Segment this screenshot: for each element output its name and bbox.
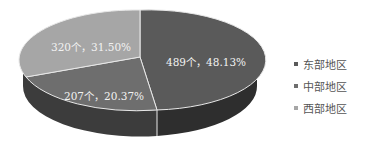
legend-label: 中部地区 — [303, 78, 347, 94]
legend-item-west[interactable]: 西部地区 — [294, 97, 347, 119]
pie-chart: 489个，48.13% 207个，20.37% 320个，31.50% — [0, 0, 290, 154]
legend-item-central[interactable]: 中部地区 — [294, 75, 347, 97]
legend: 东部地区 中部地区 西部地区 — [294, 53, 347, 119]
label-central: 207个，20.37% — [64, 90, 144, 102]
legend-swatch-icon — [294, 62, 298, 66]
legend-item-east[interactable]: 东部地区 — [294, 53, 347, 75]
legend-label: 东部地区 — [303, 56, 347, 72]
legend-swatch-icon — [294, 84, 298, 88]
label-east: 489个，48.13% — [166, 56, 246, 68]
legend-label: 西部地区 — [303, 100, 347, 116]
label-west: 320个，31.50% — [51, 41, 131, 53]
legend-swatch-icon — [294, 106, 298, 110]
